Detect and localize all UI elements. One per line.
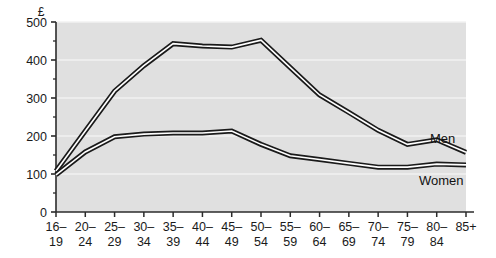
- y-axis-tick-label: 100: [26, 168, 47, 182]
- chart-container: 0100200300400500 16–1920–2425–2930–3435–…: [0, 0, 496, 258]
- x-axis-tick-label: 75–: [397, 220, 418, 234]
- x-axis-tick-label: 65–: [338, 220, 359, 234]
- x-axis-tick-label-second-line: 79: [400, 235, 414, 249]
- x-axis-tick-label-second-line: 34: [137, 235, 151, 249]
- x-axis-tick-label-second-line: 49: [225, 235, 239, 249]
- line-chart: 0100200300400500 16–1920–2425–2930–3435–…: [0, 0, 496, 258]
- x-axis-tick-label-second-line: 29: [108, 235, 122, 249]
- x-axis-tick-label-second-line: 44: [195, 235, 209, 249]
- x-axis-tick-label-second-line: 64: [313, 235, 327, 249]
- x-axis-tick-label-second-line: 54: [254, 235, 268, 249]
- x-axis-tick-label-second-line: 19: [49, 235, 63, 249]
- x-axis-tick-label: 30–: [133, 220, 154, 234]
- x-axis-tick-label: 70–: [368, 220, 389, 234]
- x-axis-tick-label: 45–: [221, 220, 242, 234]
- x-axis-tick-label: 80–: [426, 220, 447, 234]
- y-axis-tick-label: 0: [40, 206, 47, 220]
- currency-unit-label: £: [38, 5, 45, 19]
- x-axis-tick-label: 25–: [104, 220, 125, 234]
- x-axis-tick-label-second-line: 84: [430, 235, 444, 249]
- series-label-women: Women: [419, 173, 464, 188]
- y-axis-tick-label: 200: [26, 130, 47, 144]
- x-axis-tick-label-second-line: 24: [78, 235, 92, 249]
- x-axis-tick-label-second-line: 69: [342, 235, 356, 249]
- series-label-men: Men: [430, 131, 455, 146]
- x-axis-tick-label-second-line: 74: [371, 235, 385, 249]
- x-axis-tick-label: 40–: [192, 220, 213, 234]
- x-axis-tick-label-second-line: 39: [166, 235, 180, 249]
- x-axis-tick-label: 35–: [163, 220, 184, 234]
- y-axis-tick-label: 400: [26, 54, 47, 68]
- x-axis-tick-label-second-line: 59: [283, 235, 297, 249]
- x-axis-tick-label: 55–: [280, 220, 301, 234]
- x-axis-tick-label: 50–: [251, 220, 272, 234]
- x-axis-tick-label: 60–: [309, 220, 330, 234]
- x-axis-tick-label: 16–: [46, 220, 67, 234]
- x-axis-tick-label: 85+: [455, 220, 476, 234]
- x-axis-tick-labels: 16–1920–2425–2930–3435–3940–4445–4950–54…: [46, 220, 477, 249]
- plot-background: [56, 22, 466, 212]
- x-axis-tick-label: 20–: [75, 220, 96, 234]
- y-axis-tick-label: 300: [26, 92, 47, 106]
